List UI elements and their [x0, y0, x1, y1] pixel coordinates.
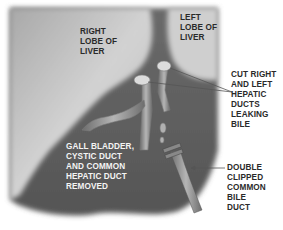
- liver-diagram: RIGHT LOBE OF LIVER LEFT LOBE OF LIVER C…: [0, 0, 283, 230]
- label-removed-organs: GALL BLADDER, CYSTIC DUCT AND COMMON HEP…: [66, 142, 134, 192]
- label-cut-hepatic-ducts: CUT RIGHT AND LEFT HEPATIC DUCTS LEAKING…: [231, 70, 276, 130]
- label-left-lobe: LEFT LOBE OF LIVER: [180, 13, 217, 43]
- label-clipped-bile-duct: DOUBLE CLIPPED COMMON BILE DUCT: [227, 163, 266, 213]
- label-right-lobe: RIGHT LOBE OF LIVER: [80, 27, 117, 57]
